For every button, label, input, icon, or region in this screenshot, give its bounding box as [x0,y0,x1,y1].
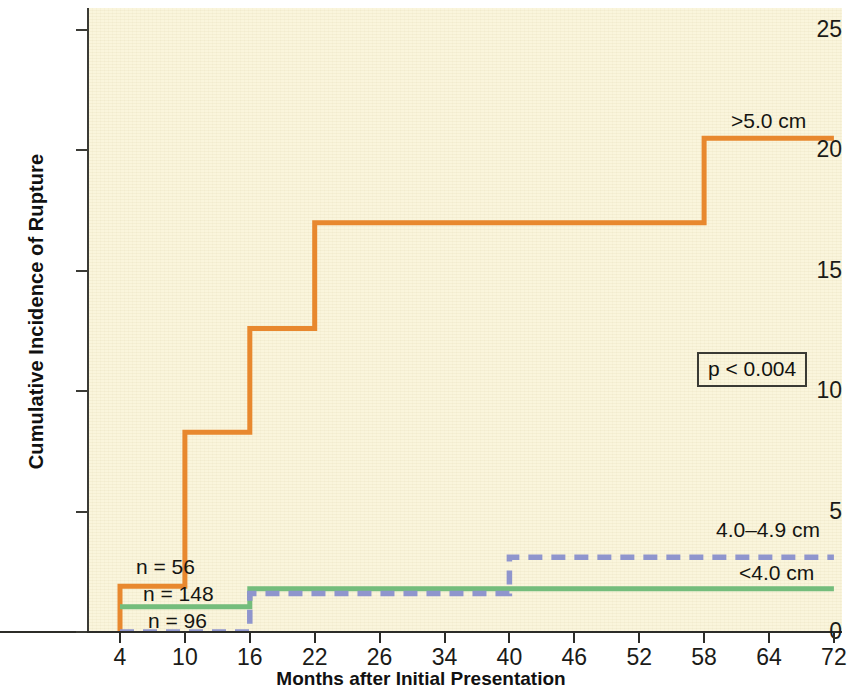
n-label-over-5cm: n = 56 [136,556,195,577]
p-value-box: p < 0.004 [697,352,807,387]
x-tick-label-16: 16 [220,646,280,669]
x-tick-label-58: 58 [674,646,734,669]
x-tick-label-26: 26 [350,646,410,669]
x-axis-line [0,631,842,633]
x-tick-46 [573,633,575,643]
x-axis-title: Months after Initial Presentation [0,668,842,690]
x-tick-58 [703,633,705,643]
x-tick-34 [444,633,446,643]
y-axis-title: Cumulative Incidence of Rupture [25,32,48,592]
series-label-under-4cm: <4.0 cm [739,562,814,583]
x-tick-label-34: 34 [415,646,475,669]
x-tick-10 [184,633,186,643]
x-tick-64 [768,633,770,643]
y-tick-label-20: 20 [784,138,842,161]
y-tick-label-25: 25 [784,18,842,41]
x-tick-label-46: 46 [544,646,604,669]
y-axis-line [87,8,89,633]
y-tick-label-15: 15 [784,259,842,282]
series-label-over-5cm: >5.0 cm [731,110,806,131]
x-tick-4 [119,633,121,643]
x-tick-label-4: 4 [90,646,150,669]
x-tick-label-72: 72 [804,646,851,669]
y-tick-15 [76,270,87,272]
x-tick-22 [314,633,316,643]
y-tick-25 [76,29,87,31]
n-label-4-0-4-9cm: n = 96 [148,610,207,631]
y-tick-5 [76,511,87,513]
x-tick-52 [638,633,640,643]
x-tick-72 [833,633,835,643]
series-path-4.0-4.9-cm [120,557,834,632]
y-tick-0 [76,631,87,633]
series-label-4-0-4-9cm: 4.0–4.9 cm [716,519,820,540]
x-tick-label-22: 22 [285,646,345,669]
y-tick-20 [76,149,87,151]
x-tick-16 [249,633,251,643]
x-tick-label-64: 64 [739,646,799,669]
x-tick-26 [379,633,381,643]
x-tick-label-10: 10 [155,646,215,669]
n-label-under-4cm: n = 148 [143,583,214,604]
y-tick-10 [76,390,87,392]
x-tick-label-40: 40 [479,646,539,669]
x-tick-label-52: 52 [609,646,669,669]
x-tick-40 [508,633,510,643]
